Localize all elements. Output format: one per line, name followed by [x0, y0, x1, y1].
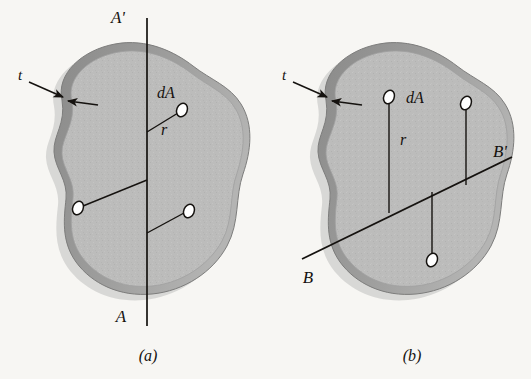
diagram-canvas: A' A t dA r (a) B' B t dA — [0, 0, 531, 379]
axis-bottom-label-a: A — [115, 307, 127, 326]
caption-b: (b) — [403, 347, 422, 365]
area-element-label-b: dA — [406, 89, 424, 106]
radius-label-a: r — [161, 121, 168, 138]
area-element-label-a: dA — [157, 84, 175, 101]
axis-top-label-a: A' — [110, 8, 125, 27]
figure-root: A' A t dA r (a) B' B t dA — [0, 0, 531, 379]
axis-bottom-label-b: B — [303, 268, 314, 287]
axis-top-label-b: B' — [493, 142, 507, 161]
caption-a: (a) — [139, 347, 158, 365]
radius-label-b: r — [400, 131, 407, 148]
